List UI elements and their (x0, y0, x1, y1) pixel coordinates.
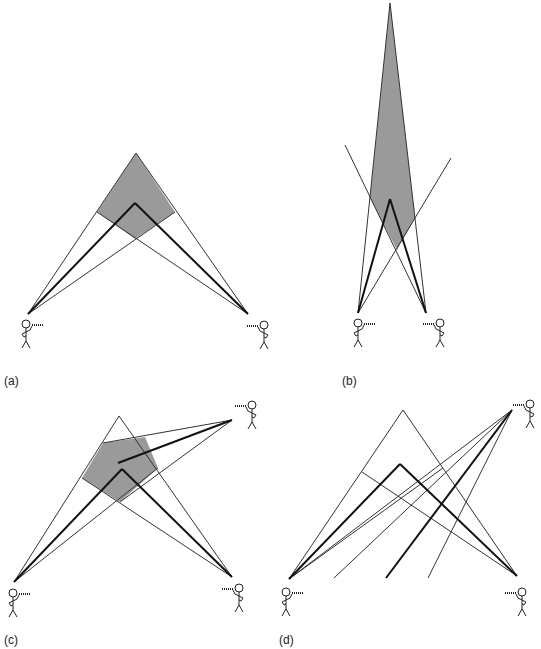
panel-label-d: (d) (279, 633, 294, 647)
panel-label-a: (a) (4, 374, 19, 388)
observer-third (512, 400, 534, 428)
observer-left (354, 319, 376, 347)
observer-right (221, 584, 243, 612)
panel-c (9, 401, 256, 617)
panel-d (282, 400, 534, 616)
observer-left (22, 320, 44, 348)
panel-b (345, 3, 451, 347)
observer-left (282, 588, 304, 616)
panel-label-b: (b) (342, 374, 357, 388)
shaded-region (97, 153, 175, 239)
observer-left (9, 589, 31, 617)
observer-third (234, 401, 256, 429)
figure-canvas (0, 0, 541, 649)
observer-right (504, 588, 526, 616)
panel-a (22, 153, 268, 349)
observer-right (422, 319, 444, 347)
panel-label-c: (c) (4, 633, 18, 647)
observer-right (246, 321, 268, 349)
